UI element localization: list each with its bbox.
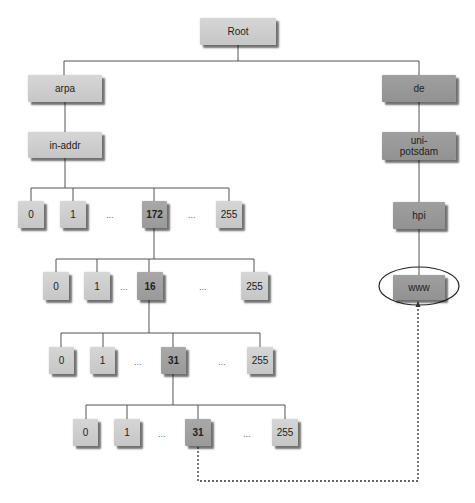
ellipsis: ... <box>188 210 196 220</box>
node-l3-1: 1 <box>90 347 115 374</box>
node-l1-255: 255 <box>216 201 242 228</box>
node-l4-31: 31 <box>185 419 211 446</box>
node-uni-potsdam-line1: uni- <box>411 135 428 146</box>
node-l3-31: 31 <box>161 347 186 374</box>
node-l3-255: 255 <box>247 347 273 374</box>
node-l1-1: 1 <box>60 201 86 228</box>
ellipsis: ... <box>134 357 142 367</box>
node-l2-1: 1 <box>84 272 110 300</box>
ellipsis: ... <box>243 429 251 439</box>
node-hpi: hpi <box>393 202 445 229</box>
arrowhead-icon <box>416 301 421 307</box>
node-uni-potsdam-line2: potsdam <box>400 146 438 157</box>
node-l4-1: 1 <box>114 419 140 446</box>
node-de: de <box>382 75 456 102</box>
ellipsis: ... <box>120 282 128 292</box>
ellipsis: ... <box>218 357 226 367</box>
node-www: www <box>393 275 445 300</box>
ellipsis: ... <box>199 282 207 292</box>
dns-tree-diagram: Root arpa in-addr 0 1 ... 172 ... 255 0 … <box>0 0 475 503</box>
ellipsis: ... <box>158 429 166 439</box>
node-l4-255: 255 <box>272 419 298 446</box>
node-root: Root <box>200 18 276 45</box>
node-in-addr: in-addr <box>28 132 102 158</box>
dotted-link <box>198 305 418 481</box>
node-l2-255: 255 <box>241 272 268 300</box>
node-uni-potsdam: uni- potsdam <box>382 132 456 160</box>
node-l1-0: 0 <box>18 201 44 228</box>
node-l3-0: 0 <box>49 347 74 374</box>
node-l1-172: 172 <box>142 201 167 228</box>
ellipsis: ... <box>106 210 114 220</box>
node-arpa: arpa <box>28 75 102 102</box>
node-l4-0: 0 <box>73 419 98 446</box>
node-l2-0: 0 <box>43 272 69 300</box>
node-l2-16: 16 <box>137 272 163 300</box>
